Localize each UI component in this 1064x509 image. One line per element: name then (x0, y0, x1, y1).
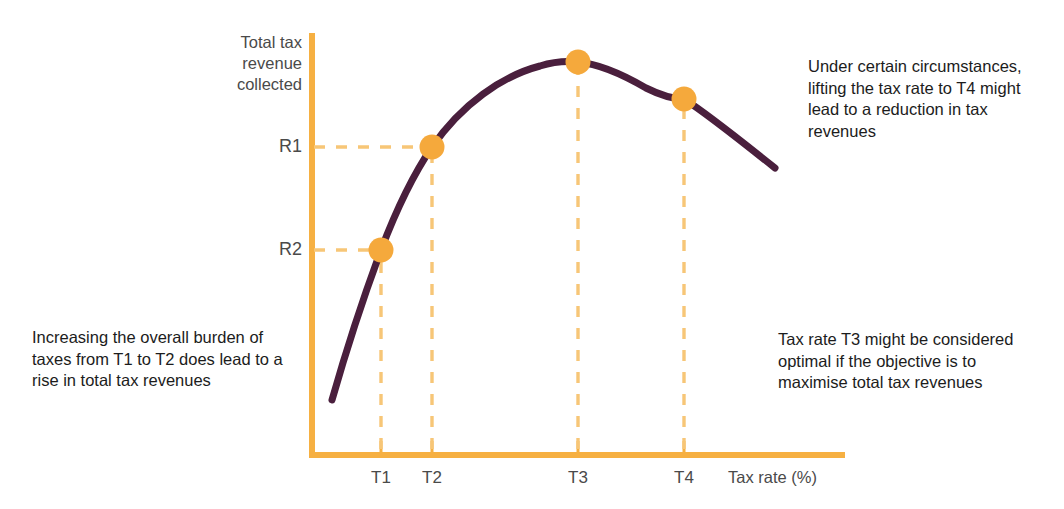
y-tick-label-R1: R1 (256, 136, 302, 157)
data-point-T2 (420, 135, 445, 160)
laffer-curve-figure: Total tax revenue collected R1 R2 T1 T2 … (0, 0, 1064, 509)
x-tick-label-T4: T4 (664, 468, 704, 488)
y-axis-title: Total tax revenue collected (206, 32, 302, 95)
data-point-T4 (672, 87, 697, 112)
annotation-bottom-left: Increasing the overall burden of taxes f… (32, 327, 284, 392)
x-axis-title: Tax rate (%) (728, 468, 817, 487)
y-tick-label-R2: R2 (256, 239, 302, 260)
annotation-bottom-right: Tax rate T3 might be considered optimal … (778, 329, 1022, 394)
data-point-T3 (566, 50, 591, 75)
x-tick-label-T3: T3 (558, 468, 598, 488)
laffer-curve-path (332, 61, 775, 400)
data-point-T1 (369, 238, 394, 263)
x-tick-label-T1: T1 (361, 468, 401, 488)
x-tick-label-T2: T2 (412, 468, 452, 488)
annotation-top-right: Under certain circumstances, lifting the… (808, 56, 1036, 142)
